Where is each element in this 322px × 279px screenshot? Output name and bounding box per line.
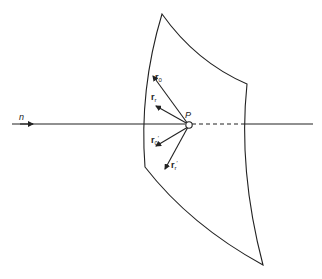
diagram: n P r0 rr r0′ rr′	[0, 0, 322, 279]
label-rr: rr	[151, 92, 157, 103]
surface-patch	[144, 14, 263, 265]
label-rr-prime: rr′	[171, 160, 179, 171]
label-r0: r0	[155, 72, 163, 83]
label-n: n	[19, 112, 24, 122]
vector-r0	[153, 76, 188, 124]
label-p: P	[185, 110, 191, 120]
point-p	[186, 122, 192, 128]
vector-rr	[156, 106, 188, 124]
